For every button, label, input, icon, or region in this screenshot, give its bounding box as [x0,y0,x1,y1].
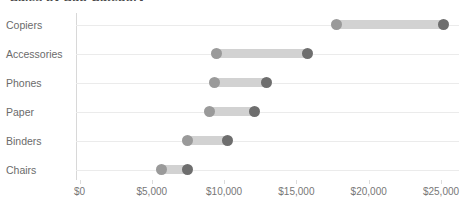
dot-high[interactable] [438,19,449,30]
range-bar[interactable] [337,20,444,29]
x-axis-tick-mark [296,180,297,184]
gridline [76,141,459,142]
x-axis-tick-label: $25,000 [423,186,459,198]
y-axis-line [76,13,77,180]
dot-high[interactable] [182,164,193,175]
x-axis-tick-mark [369,180,370,184]
category-label-copiers: Copiers [6,17,72,33]
category-label-accessories: Accessories [6,46,72,62]
category-label-binders: Binders [6,133,72,149]
gridline [76,112,459,113]
x-axis-tick-label: $0 [74,186,85,198]
x-axis-tick-mark [80,180,81,184]
dot-low[interactable] [156,164,167,175]
x-axis-tick-label: $5,000 [137,186,168,198]
gridline [76,170,459,171]
dot-high[interactable] [261,77,272,88]
x-axis-tick-label: $20,000 [351,186,387,198]
category-label-phones: Phones [6,75,72,91]
x-axis-tick-mark [441,180,442,184]
category-label-paper: Paper [6,104,72,120]
x-axis-tick-mark [152,180,153,184]
range-bar[interactable] [210,107,255,116]
range-bar[interactable] [217,49,307,58]
dot-high[interactable] [249,106,260,117]
x-axis-tick-mark [224,180,225,184]
plot-area: CopiersAccessoriesPhonesPaperBindersChai… [0,0,466,208]
dot-high[interactable] [302,48,313,59]
x-axis-tick-label: $10,000 [206,186,242,198]
range-bar[interactable] [215,78,267,87]
dot-high[interactable] [222,135,233,146]
category-label-chairs: Chairs [6,162,72,178]
x-axis-tick-label: $15,000 [278,186,314,198]
dumbbell-chart: Sales by Sub-Category CopiersAccessories… [0,0,466,208]
